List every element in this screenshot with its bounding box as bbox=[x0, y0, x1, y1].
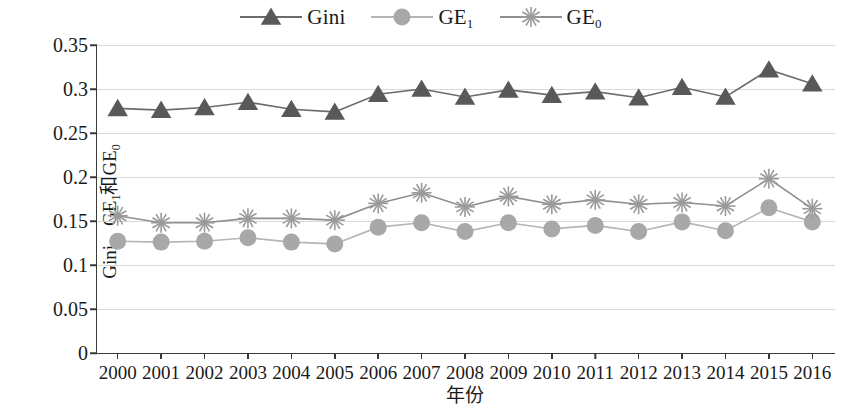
x-tick: 2013 bbox=[663, 353, 701, 382]
x-tick: 2016 bbox=[793, 353, 831, 382]
x-axis-title: 年份 bbox=[96, 380, 834, 406]
asterisk-marker bbox=[281, 208, 301, 228]
x-tick-mark bbox=[812, 353, 814, 359]
x-tick: 2005 bbox=[316, 353, 354, 382]
triangle-marker bbox=[759, 60, 780, 77]
asterisk-marker bbox=[542, 194, 562, 214]
circle-marker bbox=[717, 222, 734, 239]
x-tick: 2004 bbox=[272, 353, 310, 382]
x-tick-mark bbox=[768, 353, 770, 359]
circle-marker bbox=[326, 235, 343, 252]
asterisk-marker bbox=[151, 213, 171, 233]
triangle-marker bbox=[238, 93, 259, 110]
x-tick: 2001 bbox=[142, 353, 180, 382]
asterisk-marker bbox=[585, 190, 605, 210]
chart-figure: GiniGE1GE0 Gini、GE1和GE0 00.050.10.150.20… bbox=[0, 0, 842, 406]
circle-marker bbox=[413, 214, 430, 231]
x-axis-ticks: 2000200120022003200420052006200720082009… bbox=[96, 353, 834, 383]
x-tick-mark bbox=[247, 353, 249, 359]
x-tick: 2007 bbox=[403, 353, 441, 382]
asterisk-marker bbox=[802, 199, 822, 219]
triangle-marker bbox=[672, 78, 693, 95]
asterisk-marker bbox=[629, 194, 649, 214]
circle-marker bbox=[500, 214, 517, 231]
asterisk-marker bbox=[715, 196, 735, 216]
x-tick-mark bbox=[508, 353, 510, 359]
triangle-marker bbox=[411, 80, 432, 97]
x-tick: 2010 bbox=[533, 353, 571, 382]
asterisk-marker bbox=[759, 169, 779, 189]
x-tick-mark bbox=[638, 353, 640, 359]
circle-marker bbox=[457, 223, 474, 240]
circle-marker bbox=[587, 217, 604, 234]
triangle-marker bbox=[802, 74, 823, 91]
x-tick: 2011 bbox=[577, 353, 614, 382]
triangle-marker bbox=[498, 80, 519, 97]
asterisk-marker bbox=[412, 183, 432, 203]
x-tick: 2009 bbox=[489, 353, 527, 382]
circle-marker bbox=[370, 219, 387, 236]
x-tick: 2002 bbox=[186, 353, 224, 382]
x-tick-mark bbox=[551, 353, 553, 359]
triangle-marker bbox=[107, 99, 128, 116]
circle-marker bbox=[760, 199, 777, 216]
x-tick-mark bbox=[334, 353, 336, 359]
circle-marker bbox=[630, 223, 647, 240]
x-tick-mark bbox=[377, 353, 379, 359]
x-tick-mark bbox=[725, 353, 727, 359]
asterisk-marker bbox=[238, 208, 258, 228]
asterisk-marker bbox=[368, 193, 388, 213]
asterisk-marker bbox=[325, 210, 345, 230]
x-tick-mark bbox=[594, 353, 596, 359]
x-tick: 2012 bbox=[620, 353, 658, 382]
asterisk-marker bbox=[498, 186, 518, 206]
circle-marker bbox=[153, 234, 170, 251]
x-tick: 2015 bbox=[750, 353, 788, 382]
x-tick: 2008 bbox=[446, 353, 484, 382]
asterisk-marker bbox=[108, 206, 128, 226]
x-tick: 2006 bbox=[359, 353, 397, 382]
x-tick-mark bbox=[204, 353, 206, 359]
circle-marker bbox=[283, 234, 300, 251]
circle-marker bbox=[239, 229, 256, 246]
series-layer bbox=[0, 0, 842, 406]
x-tick-mark bbox=[464, 353, 466, 359]
asterisk-marker bbox=[455, 197, 475, 217]
asterisk-marker bbox=[672, 193, 692, 213]
x-tick-mark bbox=[117, 353, 119, 359]
series-Gini bbox=[107, 60, 822, 120]
triangle-marker bbox=[585, 82, 606, 99]
x-tick: 2000 bbox=[99, 353, 137, 382]
circle-marker bbox=[196, 233, 213, 250]
circle-marker bbox=[674, 213, 691, 230]
x-tick-mark bbox=[291, 353, 293, 359]
x-tick: 2003 bbox=[229, 353, 267, 382]
x-tick-mark bbox=[681, 353, 683, 359]
x-tick-mark bbox=[421, 353, 423, 359]
asterisk-marker bbox=[195, 213, 215, 233]
circle-marker bbox=[543, 220, 560, 237]
x-tick-mark bbox=[160, 353, 162, 359]
x-tick: 2014 bbox=[706, 353, 744, 382]
circle-marker bbox=[109, 233, 126, 250]
